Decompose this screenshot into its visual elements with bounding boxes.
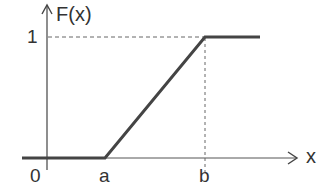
x-tick-b: b (199, 166, 210, 185)
cdf-curve (22, 37, 260, 158)
x-axis-label: x (306, 146, 316, 166)
x-tick-a: a (99, 166, 110, 185)
y-tick-one: 1 (27, 27, 38, 46)
y-axis-label: F(x) (56, 4, 92, 24)
origin-label: 0 (30, 166, 41, 185)
cdf-chart (0, 0, 335, 192)
